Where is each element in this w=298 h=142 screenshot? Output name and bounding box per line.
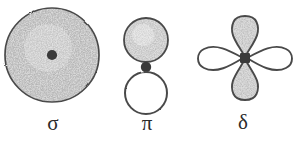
orbital-symmetry-figure: σ: [0, 0, 298, 142]
orbital-pi: π: [106, 0, 188, 142]
pi-nucleus-dot: [141, 62, 151, 72]
delta-lobe-top: [232, 16, 258, 57]
delta-lobe-bottom: [232, 59, 258, 100]
pi-upper-lobe: [124, 18, 168, 62]
delta-lobe-left: [198, 47, 243, 70]
delta-label: δ: [188, 112, 298, 133]
orbital-sigma: σ: [0, 0, 106, 142]
delta-nucleus-square: [240, 53, 250, 63]
sigma-label: σ: [0, 113, 106, 134]
delta-lobe-right: [247, 47, 292, 70]
orbital-delta: δ: [188, 0, 298, 142]
sigma-nucleus-dot: [47, 50, 57, 60]
pi-lower-lobe: [125, 72, 167, 114]
pi-label: π: [106, 113, 188, 134]
